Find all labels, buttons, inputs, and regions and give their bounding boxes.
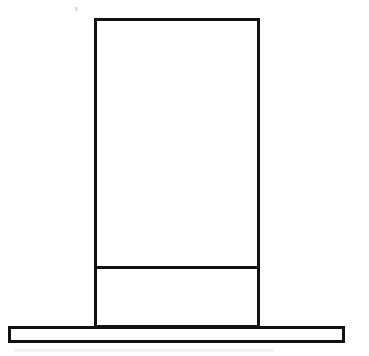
figure-canvas: [0, 0, 369, 356]
scan-smudge: [14, 349, 274, 352]
figure-background: [0, 0, 369, 356]
scan-speck: [75, 7, 78, 11]
figure-drawing: [0, 0, 369, 356]
